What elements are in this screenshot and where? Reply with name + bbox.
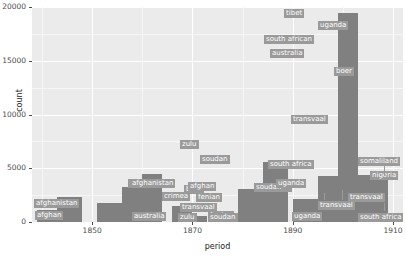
bar-label: tibet — [284, 9, 304, 18]
bar-label: uganda — [318, 21, 348, 30]
bar — [248, 194, 263, 222]
y-tick-mark — [29, 222, 32, 223]
label-leader-line — [324, 193, 325, 200]
y-tick-label: 10000 — [0, 111, 26, 119]
bar-label: uganda — [292, 212, 322, 221]
bar-label: boer — [334, 67, 354, 76]
gridline-y-major — [32, 7, 403, 8]
bar-label: soudan — [208, 213, 238, 222]
x-tick-mark — [393, 222, 394, 225]
bar-label: zulu — [180, 140, 199, 149]
bar — [97, 203, 122, 222]
bar-label: transvaal — [348, 193, 385, 202]
bar-label: afghanistan — [34, 199, 79, 208]
bar-label: soudan — [200, 155, 230, 164]
x-tick-mark — [293, 222, 294, 225]
y-tick-label: 5000 — [0, 164, 26, 172]
bar-label: afghan — [35, 211, 63, 220]
y-tick-label: 20000 — [0, 3, 26, 11]
bar-label: transvaal — [180, 203, 217, 212]
y-tick-label: 0 — [0, 218, 26, 226]
y-tick-label: 15000 — [0, 57, 26, 65]
gridline-x-minor — [42, 7, 43, 222]
chart-figure: count 05000100001500020000 1850187018901… — [0, 0, 406, 257]
label-leader-line — [384, 203, 385, 211]
bar-label: australia — [132, 212, 166, 221]
x-tick-mark — [92, 222, 93, 225]
bar-label: south african — [264, 35, 314, 44]
x-axis-title: period — [32, 242, 403, 251]
bar-label: australia — [270, 49, 304, 58]
bar-label: transvaal — [291, 115, 328, 124]
bar-label: somaliland — [358, 157, 400, 166]
label-leader-line — [342, 190, 343, 200]
bar-label: zulu — [178, 213, 197, 222]
label-leader-line — [384, 166, 385, 176]
bar — [263, 205, 288, 222]
bar-label: south africa — [358, 213, 403, 222]
bar-label: afghan — [188, 182, 216, 191]
bar-label: south africa — [268, 160, 314, 169]
bar-label: uganda — [276, 179, 306, 188]
x-tick-label: 1850 — [78, 227, 106, 235]
plot-panel: afghanafghanistanaustraliacrimeathe crim… — [32, 7, 403, 222]
bar-label: transvaal — [318, 201, 355, 210]
gridline-x-major — [92, 7, 93, 222]
bar-label: afghanistan — [130, 179, 175, 188]
bar-label: fenian — [196, 193, 222, 202]
x-tick-label: 1870 — [178, 227, 206, 235]
x-tick-label: 1890 — [279, 227, 307, 235]
x-tick-label: 1910 — [379, 227, 406, 235]
x-tick-mark — [192, 222, 193, 225]
gridline-x-major — [393, 7, 394, 222]
